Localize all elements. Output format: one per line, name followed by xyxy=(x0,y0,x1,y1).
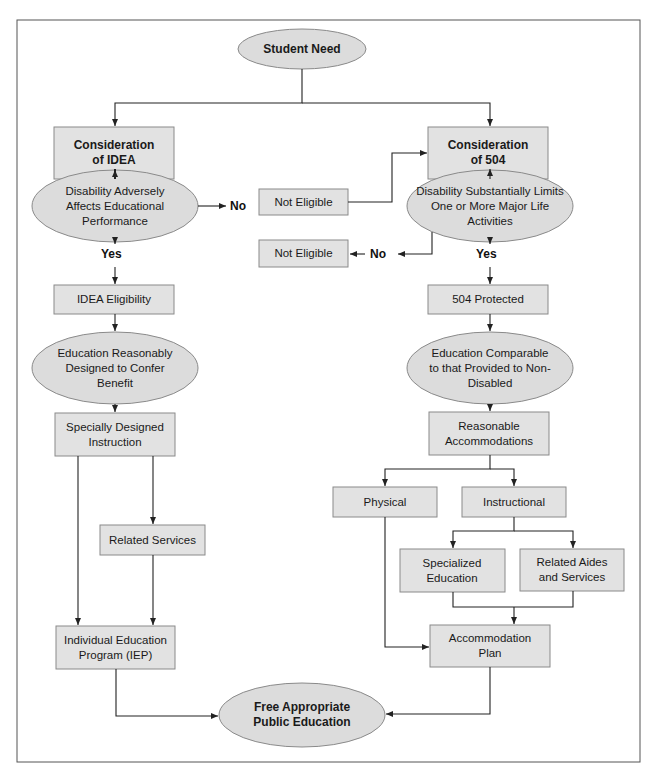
504-protected-label: 504 Protected xyxy=(428,285,548,314)
consideration-idea-line1: Consideration xyxy=(74,138,155,153)
consideration-504-line2: of 504 xyxy=(471,153,506,168)
reasonable-accommodations-label: Reasonable Accommodations xyxy=(439,412,539,455)
no-label-right: No xyxy=(370,247,386,261)
accommodation-plan-label: Accommodation Plan xyxy=(445,625,535,667)
consideration-504-line1: Consideration xyxy=(448,138,529,153)
idea-benefit-label: Education Reasonably Designed to Confer … xyxy=(50,340,180,396)
physical-label: Physical xyxy=(333,487,437,517)
yes-label-right: Yes xyxy=(476,247,497,261)
consideration-idea-label: Consideration of IDEA xyxy=(54,127,174,179)
fape-label: Free Appropriate Public Education xyxy=(240,694,364,736)
instructional-label: Instructional xyxy=(462,487,566,517)
idea-eligibility-label: IDEA Eligibility xyxy=(54,285,174,314)
related-aides-label: Related Aides and Services xyxy=(528,549,616,591)
sec504-question-label: Disability Substantially Limits One or M… xyxy=(412,178,568,234)
related-services-label: Related Services xyxy=(100,525,205,555)
comparable-education-label: Education Comparable to that Provided to… xyxy=(428,340,552,396)
iep-label: Individual Education Program (IEP) xyxy=(56,626,175,669)
idea-question-label: Disability Adversely Affects Educational… xyxy=(50,178,180,234)
not-eligible-2-label: Not Eligible xyxy=(259,240,348,267)
consideration-idea-line2: of IDEA xyxy=(92,153,135,168)
specially-designed-label: Specially Designed Instruction xyxy=(60,413,170,456)
consideration-504-label: Consideration of 504 xyxy=(428,127,548,179)
not-eligible-1-label: Not Eligible xyxy=(259,189,348,215)
specialized-education-label: Specialized Education xyxy=(412,549,492,592)
yes-label-left: Yes xyxy=(101,247,122,261)
no-label-left: No xyxy=(230,199,246,213)
student-need-label: Student Need xyxy=(238,38,366,60)
